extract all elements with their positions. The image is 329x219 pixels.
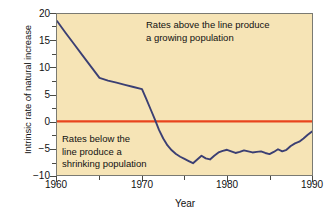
x-tick-mark-1975	[184, 176, 185, 180]
annotation-below-line: Rates below the line produce a shrinking…	[62, 133, 147, 171]
y-tick-label-5: 5	[10, 90, 50, 100]
x-tick-mark-1985	[270, 176, 271, 180]
x-axis-label: Year	[56, 198, 314, 209]
annotation-above-line: Rates above the line produce a growing p…	[146, 19, 270, 44]
chart-figure: Intrinsic rate of natural increase 20 15…	[0, 0, 329, 219]
x-tick-label-1970: 1970	[119, 180, 165, 190]
x-tick-label-1980: 1980	[204, 180, 250, 190]
x-tick-label-1960: 1960	[33, 180, 79, 190]
y-tick-label-minus5: −5	[10, 144, 50, 154]
y-tick-label-20: 20	[10, 9, 50, 19]
x-tick-mark-1965	[99, 176, 100, 180]
y-tick-label-15: 15	[10, 36, 50, 46]
y-tick-label-10: 10	[10, 63, 50, 73]
y-tick-label-0: 0	[10, 117, 50, 127]
x-tick-label-1990: 1990	[289, 180, 329, 190]
